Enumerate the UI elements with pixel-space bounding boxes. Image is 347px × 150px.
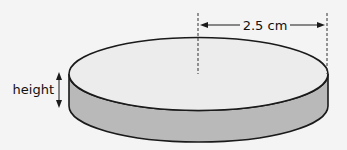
radius-label: 2.5 cm: [243, 18, 288, 33]
height-label: height: [13, 82, 54, 97]
arrowhead-left-icon: [200, 22, 208, 28]
cylinder-diagram: 2.5 cm height: [0, 0, 347, 150]
arrowhead-down-icon: [56, 100, 62, 108]
arrowhead-right-icon: [317, 22, 325, 28]
arrowhead-up-icon: [56, 72, 62, 80]
